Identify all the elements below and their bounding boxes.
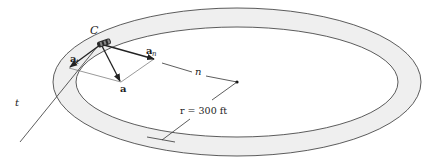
label-car: C bbox=[90, 24, 99, 37]
label-t-axis: t bbox=[15, 97, 20, 108]
track-diagram: C t n a a t a n r = 300 ft bbox=[0, 0, 437, 166]
label-a: a bbox=[120, 83, 127, 94]
svg-text:n: n bbox=[152, 50, 157, 58]
svg-text:t: t bbox=[76, 58, 79, 66]
diagram-canvas: C t n a a t a n r = 300 ft bbox=[0, 0, 437, 166]
label-radius: r = 300 ft bbox=[180, 105, 227, 116]
label-n-axis: n bbox=[195, 66, 201, 77]
